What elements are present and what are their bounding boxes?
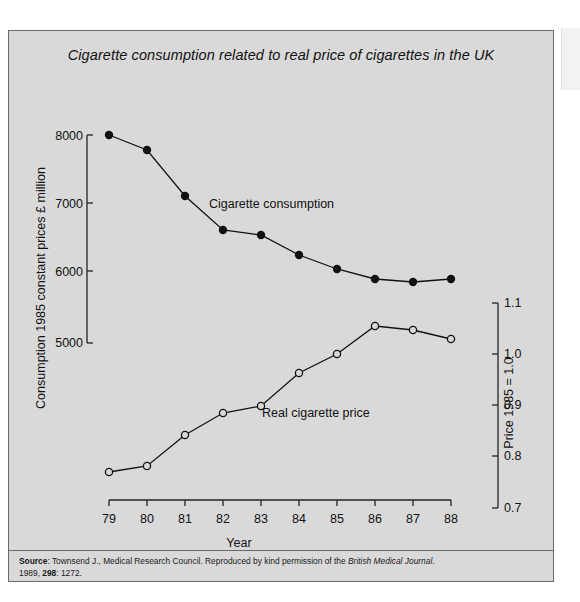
data-point-price-88 <box>447 335 454 342</box>
data-point-price-79 <box>105 468 112 475</box>
chart-canvas <box>9 31 555 551</box>
data-point-price-82 <box>219 409 226 416</box>
data-point-consumption-88 <box>447 275 455 283</box>
data-point-consumption-83 <box>257 231 265 239</box>
data-point-consumption-82 <box>219 226 227 234</box>
source-pages: : 1272. <box>56 568 82 578</box>
data-point-consumption-79 <box>105 131 113 139</box>
data-point-consumption-86 <box>371 275 379 283</box>
source-journal-name: British Medical Journal <box>348 556 432 566</box>
data-point-consumption-80 <box>143 146 151 154</box>
y-axis-right <box>492 303 498 508</box>
source-volume: 298 <box>42 568 56 578</box>
y-axis-left <box>87 135 93 343</box>
x-axis <box>109 500 451 506</box>
source-year: 1989, <box>19 568 42 578</box>
figure-card: Cigarette consumption related to real pr… <box>8 30 554 582</box>
data-point-price-80 <box>143 462 150 469</box>
data-point-price-85 <box>333 350 340 357</box>
data-point-consumption-81 <box>181 192 189 200</box>
data-point-consumption-84 <box>295 251 303 259</box>
source-text-primary: Townsend J., Medical Research Council. R… <box>52 556 348 566</box>
plot-area: Consumption 1985 constant prices £ milli… <box>9 31 555 551</box>
source-note: Source: Townsend J., Medical Research Co… <box>19 556 539 579</box>
series-cigarette-consumption <box>105 131 455 286</box>
page-background: Cigarette consumption related to real pr… <box>0 0 580 602</box>
series-real-cigarette-price <box>105 322 454 475</box>
source-text-secondary: . <box>432 556 434 566</box>
data-point-price-84 <box>295 369 302 376</box>
data-point-consumption-87 <box>409 278 417 286</box>
data-point-consumption-85 <box>333 265 341 273</box>
data-point-price-81 <box>181 431 188 438</box>
data-point-price-83 <box>257 402 264 409</box>
source-divider <box>9 550 553 551</box>
data-point-price-87 <box>409 326 416 333</box>
data-point-price-86 <box>371 322 378 329</box>
source-label: Source <box>19 556 47 566</box>
page-edge-strip <box>561 28 580 90</box>
